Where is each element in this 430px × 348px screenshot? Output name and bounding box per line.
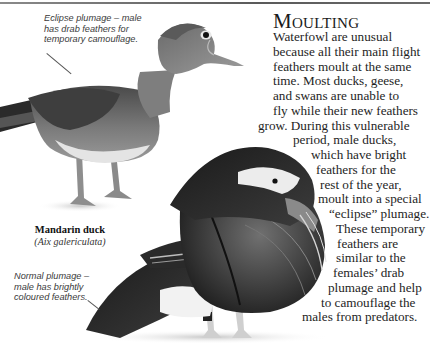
body-text-line: time. Most ducks, geese,: [273, 74, 403, 89]
eclipse-caption-leader: [46, 53, 71, 74]
body-text-line: and swans are unable to: [273, 89, 399, 104]
body-text-line: similar to the: [336, 251, 406, 266]
body-text-line: females’ drab: [333, 266, 404, 281]
species-latin-name: (Aix galericulata): [33, 236, 107, 247]
body-text-line: “eclipse” plumage.: [329, 207, 429, 222]
species-label: Mandarin duck (Aix galericulata): [33, 224, 107, 247]
species-common-name: Mandarin duck: [33, 224, 107, 236]
body-text-line: feathers moult at the same: [273, 60, 411, 75]
body-text-line: feathers for the: [316, 163, 396, 178]
body-text-line: feathers are: [337, 237, 398, 252]
body-text-line: moult into a special: [318, 192, 422, 207]
body-text-line: males from predators.: [302, 310, 417, 325]
eclipse-duck-image: [0, 24, 244, 213]
body-text-line: Waterfowl are unusual: [273, 30, 392, 45]
eclipse-plumage-caption: Eclipse plumage – male has drab feathers…: [44, 13, 144, 45]
normal-plumage-caption: Normal plumage – male has brightly colou…: [14, 271, 110, 303]
body-text-line: These temporary: [336, 222, 425, 237]
body-text-line: to camouflage the: [321, 296, 415, 311]
body-text-line: period, male ducks,: [293, 133, 396, 148]
body-text-line: because all their main flight: [273, 45, 420, 60]
normal-duck-image: [86, 147, 330, 344]
top-rule: [0, 2, 430, 4]
body-text-line: which have bright: [311, 148, 406, 163]
body-text-line: fly while their new feathers: [273, 104, 418, 119]
body-text-line: plumage and help: [328, 281, 422, 296]
body-text-line: rest of the year,: [320, 178, 402, 193]
body-text-line: grow. During this vulnerable: [258, 119, 410, 134]
